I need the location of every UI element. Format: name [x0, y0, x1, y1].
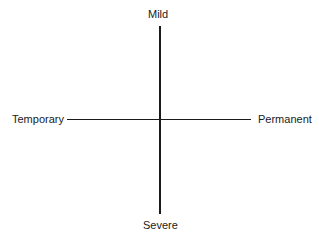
vertical-axis-line [159, 26, 161, 214]
label-temporary: Temporary [12, 113, 64, 125]
label-mild: Mild [148, 8, 168, 20]
horizontal-axis-line [67, 119, 251, 121]
label-permanent: Permanent [258, 113, 312, 125]
label-severe: Severe [143, 219, 178, 231]
